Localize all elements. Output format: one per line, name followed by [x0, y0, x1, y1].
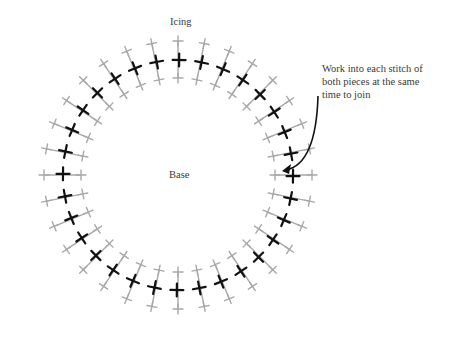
icing-stitch-icon [42, 144, 52, 154]
join-stitch-icon [57, 167, 70, 180]
icing-stitch-icon [248, 59, 256, 67]
icing-stitch-icon [62, 245, 70, 253]
base-stitch-icon [78, 151, 88, 161]
join-stitch-icon [93, 88, 102, 97]
join-stitch-icon [78, 105, 89, 116]
icing-stitch-icon [99, 59, 107, 67]
base-stitch-icon [154, 75, 164, 85]
base-stitch-icon [106, 240, 113, 247]
icing-stitch-icon [122, 47, 131, 56]
base-stitch-icon [243, 240, 250, 247]
icing-stitch-icon [269, 77, 276, 84]
icing-stitch-icon [80, 77, 87, 84]
join-stitch-icon [254, 252, 263, 261]
base-stitch-icon [228, 90, 236, 98]
base-stitch-icon [211, 81, 220, 90]
base-stitch-icon [192, 75, 202, 85]
base-stitch-icon [93, 117, 101, 125]
base-stitch-icon [192, 265, 202, 275]
icing-stitch-icon [42, 196, 52, 206]
icing-stitch-icon [50, 222, 59, 231]
base-stitch-icon [84, 133, 93, 142]
join-stitch-icon [150, 56, 163, 69]
base-stitch-icon [268, 151, 278, 161]
icing-stitch-icon [305, 196, 315, 206]
join-stitch-icon [195, 56, 208, 69]
join-stitch-icon [268, 234, 279, 245]
join-stitch-icon [59, 145, 72, 158]
icing-stitch-icon [199, 302, 209, 312]
icing-stitch-icon [297, 222, 306, 231]
base-stitch-icon [254, 225, 262, 233]
join-stitch-icon [285, 147, 298, 160]
icing-stitch-icon [39, 170, 49, 180]
icing-stitch-icon [50, 119, 59, 128]
icing-stitch-icon [99, 282, 107, 290]
base-stitch-icon [120, 90, 128, 98]
icing-stitch-icon [173, 304, 183, 314]
base-stitch-icon [93, 225, 101, 233]
base-stitch-icon [136, 81, 145, 90]
base-stitch-icon [78, 189, 88, 199]
icing-stitch-icon [147, 39, 157, 49]
icing-stitch-icon [225, 47, 234, 56]
join-stitch-icon [91, 251, 100, 260]
icing-stitch-icon [225, 294, 234, 303]
join-stitch-icon [255, 90, 264, 99]
join-stitch-icon [170, 283, 183, 296]
join-stitch-icon [193, 282, 206, 295]
base-stitch-icon [84, 208, 93, 217]
base-stitch-icon [270, 170, 280, 180]
base-stitch-icon [76, 170, 86, 180]
join-stitch-icon [237, 75, 248, 86]
icing-stitch-icon [269, 266, 276, 273]
base-stitch-icon [268, 189, 278, 199]
icing-stitch-icon [285, 245, 293, 253]
join-stitch-icon [173, 54, 186, 67]
icing-stitch-icon [199, 39, 209, 49]
base-stitch-icon [106, 103, 113, 110]
icing-stitch-icon [173, 36, 183, 46]
base-stitch-icon [263, 133, 272, 142]
join-stitch-icon [59, 190, 72, 203]
base-stitch-icon [154, 265, 164, 275]
base-stitch-icon [254, 117, 262, 125]
join-stitch-icon [284, 192, 297, 205]
piece-stitches-group [39, 36, 317, 314]
base-stitch-icon [243, 103, 250, 110]
base-stitch-icon [173, 267, 183, 277]
base-stitch-icon [263, 208, 272, 217]
stitch-ring-diagram [0, 0, 459, 349]
icing-stitch-icon [307, 170, 317, 180]
base-stitch-icon [120, 251, 128, 259]
icing-stitch-icon [248, 282, 256, 290]
icing-stitch-icon [285, 96, 293, 104]
join-stitch-icon [148, 281, 161, 294]
base-stitch-icon [136, 260, 145, 269]
base-stitch-icon [228, 251, 236, 259]
base-stitch-icon [173, 73, 183, 83]
icing-stitch-icon [147, 302, 157, 312]
icing-stitch-icon [80, 266, 87, 273]
icing-stitch-icon [297, 119, 306, 128]
base-stitch-icon [211, 260, 220, 269]
icing-stitch-icon [62, 96, 70, 104]
pointer-arrow-icon [282, 96, 318, 174]
join-stitch-icon [108, 265, 119, 276]
icing-stitch-icon [122, 294, 131, 303]
